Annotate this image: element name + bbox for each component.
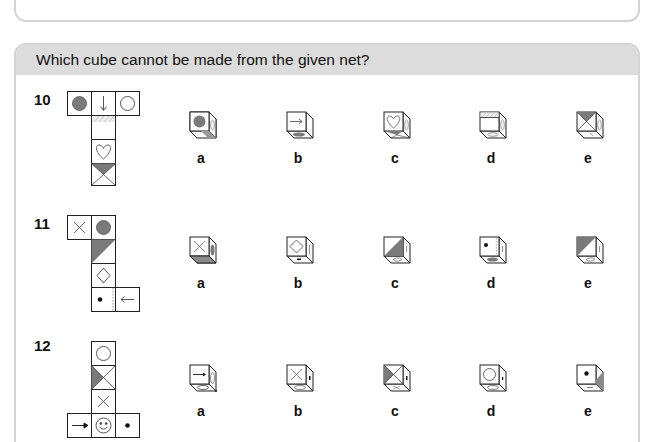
hatch-icon <box>92 116 115 122</box>
filled-oval-icon <box>293 133 305 137</box>
net-12 <box>67 341 141 438</box>
net-10 <box>67 91 141 186</box>
option-label: b <box>268 403 328 419</box>
option-label: c <box>365 275 425 291</box>
option-label: e <box>558 403 618 419</box>
cube-11-a <box>179 232 223 272</box>
option-10-c[interactable]: c <box>365 107 425 166</box>
cube-10-e <box>566 107 610 147</box>
cube-10-d <box>469 107 513 147</box>
question-number-11: 11 <box>34 215 50 232</box>
option-label: d <box>461 275 521 291</box>
option-10-d[interactable]: d <box>461 107 521 166</box>
option-12-e[interactable]: e <box>558 360 618 419</box>
cube-12-e <box>566 360 610 400</box>
option-12-a[interactable]: a <box>171 360 231 419</box>
cube-11-e <box>566 232 610 272</box>
dot-icon <box>98 297 103 302</box>
question-number-12: 12 <box>34 337 51 354</box>
net-face-heart <box>92 140 116 164</box>
cube-10-c <box>373 107 417 147</box>
option-12-c[interactable]: c <box>365 360 425 419</box>
option-label: d <box>461 150 521 166</box>
option-11-c[interactable]: c <box>365 232 425 291</box>
cube-12-a <box>179 360 223 400</box>
option-label: e <box>558 275 618 291</box>
option-11-d[interactable]: d <box>461 232 521 291</box>
option-label: b <box>268 275 328 291</box>
cube-12-b <box>276 360 320 400</box>
instruction-text: Which cube cannot be made from the given… <box>36 51 369 68</box>
option-label: e <box>558 150 618 166</box>
cube-10-b <box>276 107 320 147</box>
option-label: b <box>268 150 328 166</box>
previous-question-box <box>14 0 640 22</box>
filled-circle-icon <box>194 116 206 128</box>
option-11-e[interactable]: e <box>558 232 618 291</box>
cube-12-c <box>373 360 417 400</box>
net-11 <box>67 215 141 312</box>
dot-icon <box>125 423 130 428</box>
question-number-10: 10 <box>34 91 51 108</box>
option-11-a[interactable]: a <box>171 232 231 291</box>
option-11-b[interactable]: b <box>268 232 328 291</box>
option-label: a <box>171 150 231 166</box>
option-10-e[interactable]: e <box>558 107 618 166</box>
filled-circle-icon <box>97 221 111 235</box>
panel-header: Which cube cannot be made from the given… <box>16 45 638 75</box>
cube-11-c <box>373 232 417 272</box>
option-12-b[interactable]: b <box>268 360 328 419</box>
cube-10-a <box>179 107 223 147</box>
option-10-b[interactable]: b <box>268 107 328 166</box>
filled-circle-icon <box>73 97 87 111</box>
option-12-d[interactable]: d <box>461 360 521 419</box>
cube-11-b <box>276 232 320 272</box>
option-label: a <box>171 275 231 291</box>
net-face-circle <box>116 92 140 116</box>
option-label: a <box>171 403 231 419</box>
option-10-a[interactable]: a <box>171 107 231 166</box>
cube-11-d <box>469 232 513 272</box>
cube-12-d <box>469 360 513 400</box>
option-label: c <box>365 403 425 419</box>
option-label: c <box>365 150 425 166</box>
option-label: d <box>461 403 521 419</box>
